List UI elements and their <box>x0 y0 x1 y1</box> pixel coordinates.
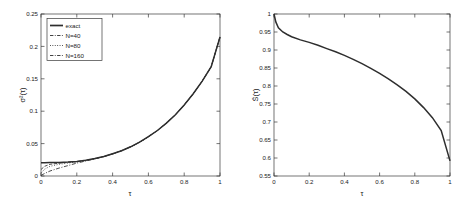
left-xtick-0: 0 <box>39 178 43 185</box>
right-ytick-2: 0.65 <box>259 136 271 143</box>
right-ytick-4: 0.75 <box>259 100 271 107</box>
right-xtick-1: 0.2 <box>305 178 314 185</box>
left-xtick-2: 0.4 <box>108 178 117 185</box>
right-ytick-8: 0.95 <box>259 28 271 35</box>
figure-container: 0 0.2 0.4 0.6 0.8 1 0 0.05 0.1 0.15 0.2 … <box>0 0 468 204</box>
right-xtick-3: 0.6 <box>375 178 384 185</box>
right-ytick-3: 0.7 <box>263 118 272 125</box>
curve-sbar <box>274 14 450 161</box>
right-x-axis-title: τ <box>361 189 364 198</box>
panel-right-sbar: 0 0.2 0.4 0.6 0.8 1 0.55 0.6 0.65 0.7 0.… <box>234 0 468 204</box>
right-ytick-6: 0.85 <box>259 64 271 71</box>
right-ytick-9: 1 <box>268 10 272 17</box>
left-x-axis-title: τ <box>129 189 132 198</box>
right-plot-svg: 0 0.2 0.4 0.6 0.8 1 0.55 0.6 0.65 0.7 0.… <box>234 0 468 204</box>
right-x-tick-labels: 0 0.2 0.4 0.6 0.8 1 <box>272 178 452 185</box>
left-ytick-5: 0.25 <box>26 10 38 17</box>
left-ytick-2: 0.1 <box>30 107 39 114</box>
left-ytick-3: 0.15 <box>26 75 38 82</box>
right-xtick-5: 1 <box>448 178 452 185</box>
left-xtick-3: 0.6 <box>144 178 153 185</box>
left-ytick-0: 0 <box>35 172 39 179</box>
right-y-tick-labels: 0.55 0.6 0.65 0.7 0.75 0.8 0.85 0.9 0.95… <box>259 10 271 179</box>
right-xtick-0: 0 <box>272 178 276 185</box>
left-ytick-4: 0.2 <box>30 43 39 50</box>
right-axes-frame <box>274 14 450 176</box>
left-plot-svg: 0 0.2 0.4 0.6 0.8 1 0 0.05 0.1 0.15 0.2 … <box>0 0 234 204</box>
legend-label-n80: N=80 <box>66 42 82 49</box>
right-xtick-2: 0.4 <box>340 178 349 185</box>
right-ytick-1: 0.6 <box>263 154 272 161</box>
panel-left-variance: 0 0.2 0.4 0.6 0.8 1 0 0.05 0.1 0.15 0.2 … <box>0 0 234 204</box>
right-ytick-7: 0.9 <box>263 46 272 53</box>
left-y-axis-title: σ²(τ) <box>18 88 27 103</box>
legend-label-exact: exact <box>66 22 81 29</box>
right-x-tickmarks <box>274 14 450 176</box>
left-y-tick-labels: 0 0.05 0.1 0.15 0.2 0.25 <box>26 10 38 179</box>
right-y-tickmarks <box>274 14 450 176</box>
left-xtick-5: 1 <box>218 178 222 185</box>
legend-label-n160: N=160 <box>66 52 85 59</box>
right-ytick-5: 0.8 <box>263 82 272 89</box>
right-ytick-0: 0.55 <box>259 172 271 179</box>
left-legend[interactable]: exact N=40 N=80 N=160 <box>47 19 102 61</box>
left-x-tick-labels: 0 0.2 0.4 0.6 0.8 1 <box>39 178 222 185</box>
left-xtick-1: 0.2 <box>73 178 82 185</box>
right-xtick-4: 0.8 <box>411 178 420 185</box>
right-y-axis-title: S̄(τ) <box>251 89 260 102</box>
legend-label-n40: N=40 <box>66 32 82 39</box>
left-xtick-4: 0.8 <box>180 178 189 185</box>
left-ytick-1: 0.05 <box>26 140 38 147</box>
